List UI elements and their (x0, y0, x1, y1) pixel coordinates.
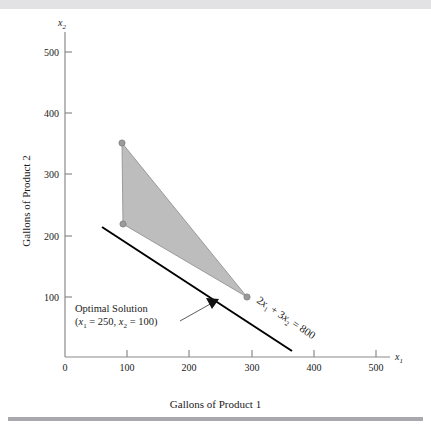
x-axis-ticks (127, 350, 376, 357)
y-axis-variable-label: x2 (57, 17, 66, 31)
constraint-equation-group: 2x1 + 3x2 = 800 (253, 294, 318, 344)
x-tick-label: 300 (245, 362, 260, 373)
vertex-marker (244, 294, 250, 300)
x-tick-label: 500 (369, 362, 384, 373)
x-axis-title: Gallons of Product 1 (0, 398, 431, 410)
vertex-marker (120, 221, 126, 227)
y-axis-ticks (65, 52, 72, 297)
y-tick-label: 100 (44, 292, 59, 303)
y-tick-label: 400 (44, 108, 59, 119)
annotation-leader-line (180, 303, 212, 321)
x-axis-tick-labels: 0 100 200 300 400 500 (63, 362, 384, 373)
optimal-solution-coords: (x1 = 250, x2 = 100) (75, 316, 158, 330)
constraint-equation-label: 2x1 + 3x2 = 800 (253, 294, 318, 344)
optimal-solution-label: Optimal Solution (75, 303, 148, 314)
y-tick-label: 300 (44, 169, 59, 180)
y-axis-title: Gallons of Product 2 (20, 131, 32, 271)
x-axis-variable-label: x1 (394, 351, 403, 365)
chart-plot-area: 500 400 300 200 100 0 100 200 300 400 50… (0, 0, 431, 426)
feasible-region-polygon (122, 143, 247, 297)
y-axis-tick-labels: 500 400 300 200 100 (44, 47, 59, 303)
x-tick-label: 100 (120, 362, 135, 373)
x-tick-label: 400 (307, 362, 322, 373)
figure-root: 500 400 300 200 100 0 100 200 300 400 50… (0, 0, 431, 426)
x-tick-label: 200 (182, 362, 197, 373)
vertex-marker (119, 140, 125, 146)
x-tick-label: 0 (63, 362, 68, 373)
bottom-decoration-rule (8, 417, 423, 421)
y-tick-label: 500 (44, 47, 59, 58)
annotation-arrow-icon (206, 298, 219, 309)
y-tick-label: 200 (44, 231, 59, 242)
